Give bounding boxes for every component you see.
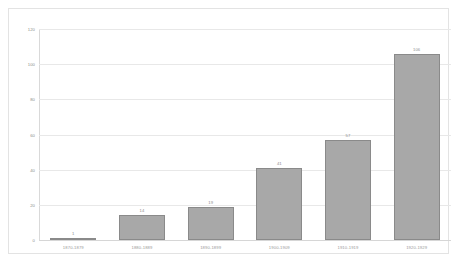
- x-category-label-1900-1909: 1900-1909: [269, 245, 290, 250]
- gridline-0: 0: [39, 240, 451, 241]
- chart-frame: 020406080100120 11870-1879141880-1889191…: [8, 8, 449, 254]
- bar-group: 141880-1889: [108, 29, 177, 240]
- y-tick-label-40: 40: [30, 167, 35, 172]
- bar-value-label-1920-1929: 106: [413, 47, 420, 52]
- plot-area: 020406080100120 11870-1879141880-1889191…: [39, 29, 451, 240]
- bars-layer: 11870-1879141880-1889191890-1899411900-1…: [39, 29, 451, 240]
- bar-value-label-1900-1909: 41: [277, 161, 282, 166]
- bar-1900-1909[interactable]: [256, 168, 302, 240]
- bar-group: 1061920-1929: [382, 29, 451, 240]
- y-tick-label-0: 0: [33, 238, 35, 243]
- x-category-label-1870-1879: 1870-1879: [63, 245, 84, 250]
- bar-chart-figure: 020406080100120 11870-1879141880-1889191…: [0, 0, 457, 266]
- bar-group: 411900-1909: [245, 29, 314, 240]
- bar-group: 571910-1919: [314, 29, 383, 240]
- bar-1910-1919[interactable]: [325, 140, 371, 240]
- bar-group: 191890-1899: [176, 29, 245, 240]
- bar-1890-1899[interactable]: [188, 207, 234, 240]
- bar-value-label-1880-1889: 14: [140, 208, 145, 213]
- x-category-label-1910-1919: 1910-1919: [338, 245, 359, 250]
- bar-value-label-1870-1879: 1: [72, 231, 74, 236]
- y-tick-label-20: 20: [30, 202, 35, 207]
- y-tick-label-60: 60: [30, 132, 35, 137]
- x-category-label-1880-1889: 1880-1889: [132, 245, 153, 250]
- bar-1880-1889[interactable]: [119, 215, 165, 240]
- x-category-label-1920-1929: 1920-1929: [406, 245, 427, 250]
- y-tick-label-80: 80: [30, 97, 35, 102]
- bar-1920-1929[interactable]: [394, 54, 440, 240]
- y-tick-label-100: 100: [28, 62, 35, 67]
- y-tick-label-120: 120: [28, 27, 35, 32]
- bar-group: 11870-1879: [39, 29, 108, 240]
- x-category-label-1890-1899: 1890-1899: [200, 245, 221, 250]
- bar-1870-1879[interactable]: [50, 238, 96, 240]
- bar-value-label-1910-1919: 57: [346, 133, 351, 138]
- bar-value-label-1890-1899: 19: [208, 200, 213, 205]
